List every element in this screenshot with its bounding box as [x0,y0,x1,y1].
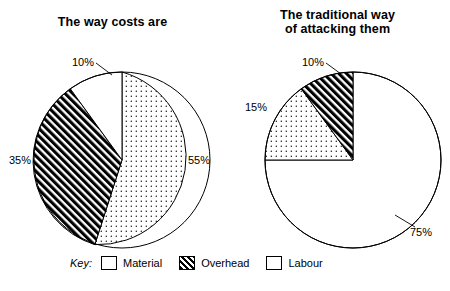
pie-left-label-35: 35% [9,155,31,166]
pie-right-label-10: 10% [302,57,324,68]
pie-right-svg [225,0,450,250]
legend-label-material: Material [123,257,162,269]
legend: Key: Material Overhead Labour [70,256,323,270]
pie-left-leader-10 [96,63,112,75]
legend-item-labour: Labour [266,256,322,270]
legend-label-labour: Labour [288,257,322,269]
legend-item-material: Material [101,256,162,270]
pie-chart-figure: The way costs are [0,0,450,291]
legend-key-label: Key: [70,257,92,269]
pie-left: 10% 35% 55% [0,0,225,250]
pie-right-label-15: 15% [245,102,267,113]
pie-right-leader-10 [326,63,341,74]
pie-left-svg [0,0,225,250]
pie-left-label-55: 55% [188,155,210,166]
pie-right: 10% 15% 75% [225,0,450,250]
pie-left-label-10: 10% [72,57,94,68]
legend-label-overhead: Overhead [201,257,249,269]
chart-panel-the-traditional-way-of-attacking-them: The traditional way of attacking them [225,0,450,250]
legend-item-overhead: Overhead [179,256,249,270]
pie-right-label-75: 75% [410,227,432,238]
hatched-swatch-icon [179,256,195,270]
plain-swatch-icon [266,256,282,270]
chart-panel-the-way-costs-are: The way costs are [0,0,225,250]
dotted-swatch-icon [101,256,117,270]
